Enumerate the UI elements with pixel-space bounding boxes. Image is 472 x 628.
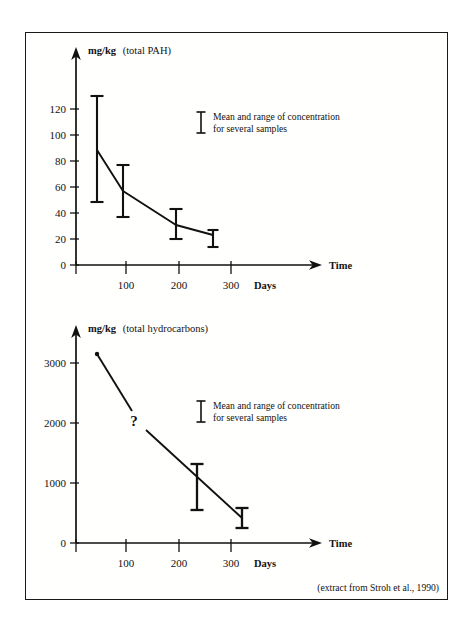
hc-data-line-segment [146, 430, 242, 518]
hc-x-axis-unit: Days [254, 558, 276, 569]
hc-y-axis-title-sub: (total hydrocarbons) [123, 323, 209, 335]
hc-xtick-label: 100 [118, 557, 135, 569]
hc-xtick-label: 200 [171, 557, 188, 569]
hc-legend-line2: for several samples [213, 412, 287, 423]
hc-y-ticks [70, 363, 79, 543]
hc-xtick-label: 300 [223, 557, 240, 569]
hc-gap-question-mark: ? [130, 413, 138, 429]
hc-data-line-segment [97, 354, 132, 411]
hc-data-point-marker [95, 352, 99, 356]
hc-y-axis [71, 325, 81, 543]
figure-credit: (extract from Stroh et al., 1990) [317, 582, 439, 593]
hc-legend: Mean and range of concentration for seve… [197, 400, 340, 423]
hc-x-axis-name: Time [329, 538, 352, 549]
hc-ytick-label: 0 [61, 537, 67, 549]
hc-ytick-label: 1000 [44, 477, 67, 489]
hc-error-bar [236, 508, 249, 528]
chart-total-hydrocarbons: 0 1000 2000 3000 100 200 300 mg/kg (tota… [26, 33, 447, 599]
hc-y-axis-title: mg/kg (total hydrocarbons) [88, 323, 209, 335]
hc-ytick-label: 2000 [44, 417, 67, 429]
hc-x-ticks [76, 539, 231, 552]
hc-y-axis-title-main: mg/kg [88, 323, 117, 334]
hc-x-axis [76, 538, 322, 548]
figure-frame: 0 20 40 60 80 100 120 100 200 300 mg/kg … [25, 32, 448, 600]
hc-error-bar [191, 464, 204, 510]
hc-legend-errorbar-icon [197, 401, 206, 422]
hc-ytick-label: 3000 [44, 357, 67, 369]
hc-legend-line1: Mean and range of concentration [213, 400, 340, 411]
